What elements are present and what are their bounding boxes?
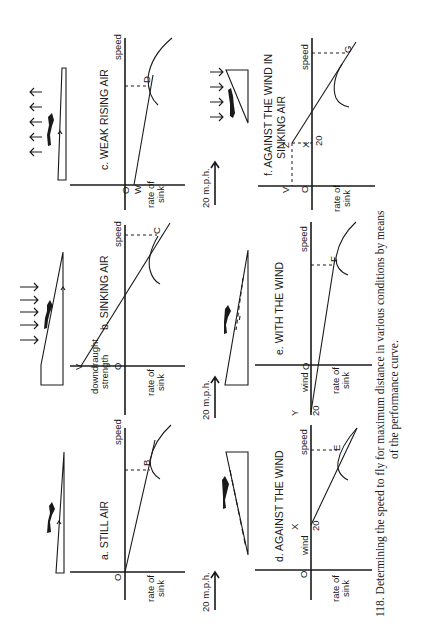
figure-caption-line-2: of the performance curve. <box>388 340 401 459</box>
svg-text:C: C <box>151 227 162 234</box>
sinking-air-arrows-icon <box>20 283 38 344</box>
svg-text:O: O <box>112 574 123 581</box>
svg-text:sink: sink <box>341 190 352 207</box>
glider-icon <box>47 502 55 533</box>
svg-text:speed: speed <box>112 221 123 247</box>
wind-arrow-icon <box>211 162 219 205</box>
svg-text:O: O <box>112 363 123 370</box>
svg-text:b. SINKING AIR: b. SINKING AIR <box>98 255 110 330</box>
wind-arrow-1: 20 m.p.h. <box>200 162 219 208</box>
svg-text:sink: sink <box>340 372 351 389</box>
glide-path-triangle <box>41 252 63 385</box>
glide-path-triangle <box>225 250 248 385</box>
svg-text:speed: speed <box>112 419 123 445</box>
svg-text:sink: sink <box>155 374 166 391</box>
svg-text:f. AGAINST THE WIND IN: f. AGAINST THE WIND IN <box>262 54 274 176</box>
svg-text:d. AGAINST THE WIND: d. AGAINST THE WIND <box>273 450 285 562</box>
panel-c-speed-label: speed <box>112 34 123 60</box>
panel-f: f. AGAINST THE WIND IN SINKING AIR speed… <box>210 38 375 212</box>
svg-text:X: X <box>289 523 300 530</box>
svg-text:sink: sink <box>155 186 166 203</box>
svg-text:O: O <box>298 571 309 578</box>
svg-text:G: G <box>342 46 353 53</box>
panel-b: b. SINKING AIR speed C V O downdraught s… <box>20 221 185 415</box>
glider-icon <box>47 113 54 146</box>
svg-text:20: 20 <box>313 135 324 146</box>
svg-text:Z: Z <box>280 142 291 148</box>
svg-text:F: F <box>328 256 339 262</box>
glide-path-triangle <box>56 452 64 573</box>
svg-text:e. WITH THE WIND: e. WITH THE WIND <box>273 261 285 355</box>
svg-text:O: O <box>120 187 131 194</box>
rising-air-arrows-icon <box>30 88 42 156</box>
svg-text:a. STILL AIR: a. STILL AIR <box>98 500 110 560</box>
svg-text:20: 20 <box>310 405 321 416</box>
svg-text:sink: sink <box>155 580 166 597</box>
svg-text:20 m.p.h.: 20 m.p.h. <box>200 572 211 612</box>
svg-text:speed: speed <box>298 226 309 252</box>
svg-text:V: V <box>73 363 84 370</box>
svg-text:Y: Y <box>289 409 300 416</box>
svg-text:wind: wind <box>299 372 310 393</box>
svg-text:20 m.p.h.: 20 m.p.h. <box>200 168 211 208</box>
figure-canvas: c. WEAK RISING AIR speed D O W rate of s… <box>0 0 425 632</box>
glide-path-triangle <box>58 68 66 180</box>
svg-text:20 m.p.h.: 20 m.p.h. <box>200 380 211 420</box>
svg-text:SINKING AIR: SINKING AIR <box>275 96 287 159</box>
wind-arrow-icon <box>211 377 219 418</box>
svg-text:W: W <box>132 185 143 194</box>
glider-icon <box>224 305 231 334</box>
svg-text:speed: speed <box>298 429 309 455</box>
panel-d: d. AGAINST THE WIND speed E X 20 wind O … <box>222 425 372 602</box>
sinking-air-arrows-icon <box>210 68 223 121</box>
wind-arrow-2: 20 m.p.h. <box>200 377 219 420</box>
svg-text:O: O <box>299 186 310 193</box>
svg-text:D: D <box>141 76 152 83</box>
svg-text:speed: speed <box>299 44 310 70</box>
glider-icon <box>222 476 229 509</box>
svg-text:wind: wind <box>299 535 310 556</box>
svg-text:X: X <box>300 141 311 148</box>
svg-text:E: E <box>331 445 342 451</box>
panel-a: a. STILL AIR speed B O rate of sink <box>47 419 185 602</box>
svg-text:O: O <box>300 363 311 370</box>
panel-c: c. WEAK RISING AIR speed D O W rate of s… <box>30 34 185 210</box>
wind-arrow-3: 20 m.p.h. <box>200 572 219 612</box>
svg-text:sink: sink <box>340 580 351 597</box>
svg-text:V: V <box>280 186 291 193</box>
glider-icon <box>228 88 235 118</box>
figure-caption-line-1: 118. Determining the speed to fly for ma… <box>374 210 387 617</box>
svg-text:B: B <box>141 460 152 466</box>
panel-c-title: c. WEAK RISING AIR <box>98 69 110 170</box>
svg-text:20: 20 <box>310 520 321 531</box>
svg-text:strength: strength <box>99 355 110 389</box>
panel-e: e. WITH THE WIND speed F O wind Y 20 rat… <box>224 222 372 416</box>
wind-arrow-icon <box>211 572 219 610</box>
